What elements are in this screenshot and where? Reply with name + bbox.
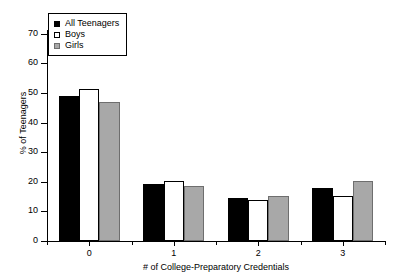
legend-item-label: All Teenagers	[65, 18, 119, 29]
bar-girls-1	[184, 186, 204, 241]
legend-item: Girls	[54, 40, 119, 51]
bar-all-teenagers-2	[228, 198, 248, 241]
bar-all-teenagers-3	[312, 188, 332, 241]
legend-item-label: Boys	[65, 29, 85, 40]
bar-girls-3	[353, 181, 373, 241]
legend-item: All Teenagers	[54, 18, 119, 29]
bar-all-teenagers-1	[143, 184, 163, 241]
chart-legend: All TeenagersBoysGirls	[48, 13, 127, 56]
bar-all-teenagers-0	[59, 96, 79, 241]
legend-item-label: Girls	[65, 40, 84, 51]
bar-chart: 010203040506070 0123 % of Teenagers # of…	[0, 0, 412, 280]
legend-swatch-icon	[54, 43, 60, 49]
legend-item: Boys	[54, 29, 119, 40]
legend-swatch-icon	[54, 21, 60, 27]
bar-boys-1	[164, 181, 184, 241]
x-axis-title: # of College-Preparatory Credentials	[47, 262, 385, 272]
bar-boys-3	[333, 196, 353, 241]
legend-swatch-icon	[54, 32, 60, 38]
bar-girls-0	[99, 102, 119, 241]
bar-boys-2	[248, 200, 268, 241]
bar-girls-2	[268, 196, 288, 241]
bar-boys-0	[79, 89, 99, 241]
y-axis-title: % of Teenagers	[18, 53, 28, 193]
